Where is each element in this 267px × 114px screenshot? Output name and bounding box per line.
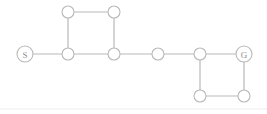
node-label: G (241, 50, 248, 60)
graph-node[interactable] (62, 48, 74, 60)
graph-node[interactable] (194, 48, 206, 60)
node-label: S (22, 50, 27, 60)
graph-canvas: SG (0, 0, 267, 114)
graph-node[interactable] (194, 90, 206, 102)
node-circle[interactable] (108, 48, 120, 60)
graph-diagram: SG (0, 0, 267, 114)
graph-node-g[interactable]: G (236, 46, 252, 62)
graph-node[interactable] (108, 6, 120, 18)
node-circle[interactable] (152, 48, 164, 60)
node-circle[interactable] (62, 6, 74, 18)
node-circle[interactable] (62, 48, 74, 60)
graph-node[interactable] (152, 48, 164, 60)
graph-node[interactable] (238, 90, 250, 102)
node-circle[interactable] (238, 90, 250, 102)
graph-node-s[interactable]: S (17, 46, 33, 62)
node-circle[interactable] (194, 90, 206, 102)
node-circle[interactable] (194, 48, 206, 60)
graph-node[interactable] (108, 48, 120, 60)
node-circle[interactable] (108, 6, 120, 18)
graph-node[interactable] (62, 6, 74, 18)
